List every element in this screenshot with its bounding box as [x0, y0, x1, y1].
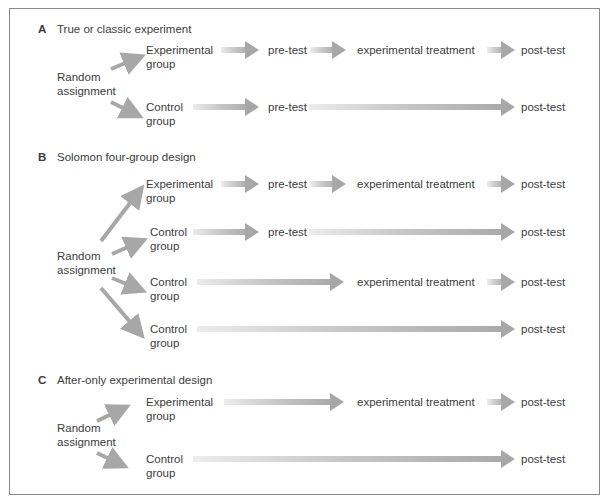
- assignment-label: Random: [57, 70, 100, 84]
- group-label: Control: [150, 275, 187, 289]
- arrow-icon: [101, 194, 137, 241]
- section-letter: A: [38, 22, 46, 36]
- step-label: experimental treatment: [357, 395, 475, 409]
- step-label: experimental treatment: [357, 177, 475, 191]
- arrow-icon: [101, 288, 137, 330]
- arrow-icon: [487, 178, 515, 190]
- group-label: Control: [150, 322, 187, 336]
- step-label: post-test: [521, 322, 565, 336]
- group-label: Control: [146, 100, 183, 114]
- group-label: Experimental: [146, 177, 213, 191]
- step-label: post-test: [521, 275, 565, 289]
- arrow-icon: [193, 226, 259, 238]
- step-label: post-test: [521, 452, 565, 466]
- step-label: pre-test: [268, 43, 307, 57]
- arrow-icon: [487, 276, 515, 288]
- arrow-icon: [197, 276, 344, 288]
- group-label: group: [146, 57, 175, 71]
- assignment-label: Random: [57, 249, 100, 263]
- step-label: post-test: [521, 177, 565, 191]
- arrow-icon: [112, 278, 136, 288]
- arrow-icon: [309, 226, 515, 238]
- arrow-icon: [111, 102, 133, 113]
- step-label: post-test: [521, 225, 565, 239]
- arrow-icon: [487, 44, 515, 56]
- step-label: pre-test: [268, 177, 307, 191]
- arrow-icon: [193, 453, 515, 465]
- step-label: pre-test: [268, 100, 307, 114]
- section-letter: C: [38, 373, 46, 387]
- arrow-icon: [112, 243, 137, 254]
- group-label: group: [150, 239, 179, 253]
- group-label: group: [150, 336, 179, 350]
- group-label: Experimental: [146, 395, 213, 409]
- arrow-icon: [221, 178, 259, 190]
- assignment-label: assignment: [57, 263, 116, 277]
- arrow-icon: [193, 101, 259, 113]
- arrow-icon: [221, 44, 259, 56]
- assignment-label: assignment: [57, 435, 116, 449]
- arrow-icon: [224, 396, 344, 408]
- group-label: group: [146, 466, 175, 480]
- section-title: After-only experimental design: [57, 373, 212, 387]
- group-label: Control: [150, 225, 187, 239]
- arrow-icon: [487, 396, 515, 408]
- step-label: post-test: [521, 43, 565, 57]
- arrow-icon: [111, 59, 135, 69]
- arrow-icon: [310, 178, 346, 190]
- arrow-icon: [310, 44, 346, 56]
- arrow-icon: [309, 101, 515, 113]
- group-label: group: [146, 114, 175, 128]
- group-label: group: [150, 289, 179, 303]
- step-label: experimental treatment: [357, 275, 475, 289]
- step-label: experimental treatment: [357, 43, 475, 57]
- assignment-label: assignment: [57, 84, 116, 98]
- section-title: Solomon four-group design: [57, 150, 196, 164]
- arrow-icon: [197, 323, 515, 335]
- step-label: post-test: [521, 395, 565, 409]
- step-label: post-test: [521, 100, 565, 114]
- group-label: Experimental: [146, 43, 213, 57]
- section-title: True or classic experiment: [57, 22, 191, 36]
- section-letter: B: [38, 150, 46, 164]
- group-label: group: [146, 409, 175, 423]
- arrow-icon: [97, 410, 120, 421]
- group-label: group: [146, 191, 175, 205]
- assignment-label: Random: [57, 421, 100, 435]
- arrow-icon: [97, 453, 118, 463]
- step-label: pre-test: [268, 225, 307, 239]
- group-label: Control: [146, 452, 183, 466]
